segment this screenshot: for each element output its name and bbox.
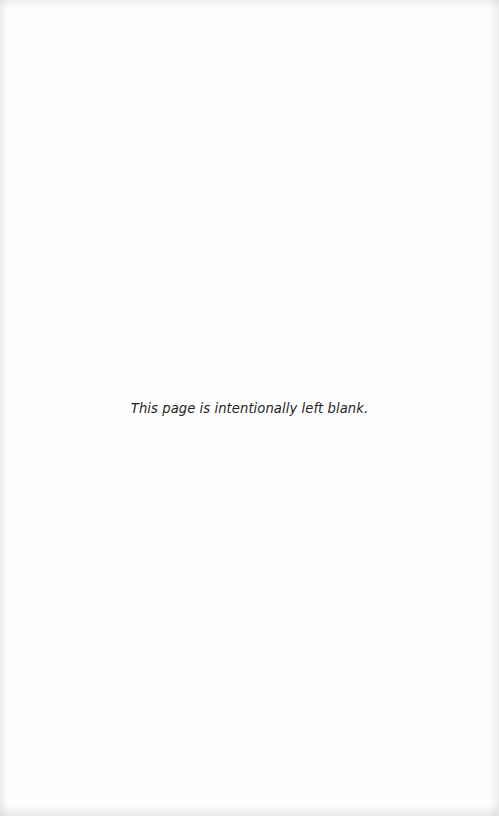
blank-page: This page is intentionally left blank. bbox=[0, 0, 499, 816]
blank-page-notice: This page is intentionally left blank. bbox=[0, 401, 499, 416]
page-edge-shading-top bbox=[0, 0, 499, 10]
page-edge-shading-bottom bbox=[0, 802, 499, 816]
